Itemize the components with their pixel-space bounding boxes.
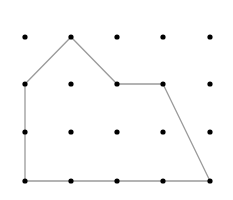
grid-dot [114,34,119,39]
grid-dot [22,81,27,86]
grid-dot [68,34,73,39]
grid-dot [22,129,27,134]
grid-dot [22,178,27,183]
grid-dot [207,81,212,86]
grid-dot [22,34,27,39]
grid-dot [207,129,212,134]
grid-dot [160,34,165,39]
polygon-outline [25,37,210,181]
grid-dot [207,34,212,39]
grid-dot [160,178,165,183]
grid-dot [114,81,119,86]
grid-dot [160,81,165,86]
dot-grid-diagram [0,0,233,200]
grid-dot [160,129,165,134]
grid-dot [68,81,73,86]
grid-dot [68,129,73,134]
grid-dot [114,129,119,134]
grid-dot [68,178,73,183]
polygon-shape [25,37,210,181]
grid-dot [207,178,212,183]
grid-dot [114,178,119,183]
